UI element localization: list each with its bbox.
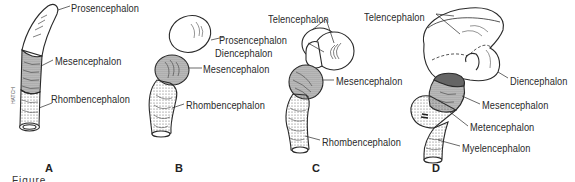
panel-letter-d: D — [432, 163, 440, 174]
label-a-mesencephalon: Mesencephalon — [55, 56, 121, 67]
c-rhombencephalon-shape — [286, 94, 309, 152]
panel-letter-b: B — [175, 163, 183, 174]
c-tube-opening — [292, 147, 308, 153]
panel-d-illustration — [411, 8, 508, 163]
label-d-telencephalon: Telencephalon — [364, 12, 425, 23]
label-d-metencephalon: Metencephalon — [470, 122, 534, 133]
illustrator-signature: HATCH — [10, 87, 16, 104]
label-a-rhombencephalon: Rhombencephalon — [51, 94, 130, 105]
b-tube-opening — [152, 131, 170, 137]
label-c-diencephalon: Diencephalon — [215, 48, 273, 59]
label-b-prosencephalon: Prosencephalon — [219, 35, 287, 46]
label-d-mesencephalon: Mesencephalon — [482, 100, 548, 111]
label-a-prosencephalon: Prosencephalon — [71, 3, 139, 14]
label-c-rhombencephalon: Rhombencephalon — [322, 137, 401, 148]
label-b-rhombencephalon: Rhombencephalon — [186, 100, 265, 111]
panel-letter-c: C — [312, 163, 320, 174]
label-d-myelencephalon: Myelencephalon — [462, 143, 531, 154]
label-b-mesencephalon: Mesencephalon — [203, 64, 269, 75]
panel-a-illustration — [20, 4, 71, 131]
a-prosencephalon-shape — [22, 4, 58, 56]
figure-caption-fragment: Figure — [12, 176, 46, 182]
panel-letter-a: A — [45, 163, 53, 174]
brain-development-diagram — [0, 0, 575, 182]
label-c-telencephalon: Telencephalon — [268, 14, 329, 25]
label-c-mesencephalon: Mesencephalon — [336, 76, 402, 87]
d-telencephalon-shape — [423, 8, 503, 81]
label-d-diencephalon: Diencephalon — [510, 76, 568, 87]
b-prosencephalon-shape — [164, 10, 216, 58]
